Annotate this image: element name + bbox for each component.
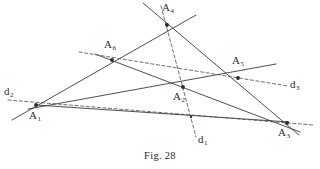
vertex-dots-group (34, 23, 289, 125)
point-A4-dot (165, 23, 169, 27)
line-A1-A2-A5-ext (28, 64, 276, 109)
point-label-A6: A6 (104, 38, 115, 50)
point-A1-dot (34, 103, 38, 107)
point-A6-dot (110, 58, 114, 62)
line-A1-A6-A4 (12, 15, 196, 120)
point-A2-dot (181, 85, 185, 89)
dashed-line-d2 (8, 100, 313, 125)
line-label-d2: d2 (4, 85, 13, 97)
figure-28-container: A1 A2 A3 A4 A5 A6 d1 d2 d3 Fig. 28 (0, 0, 320, 169)
point-A3-dot (285, 121, 289, 125)
geometry-diagram (0, 0, 320, 169)
point-label-A4: A4 (162, 1, 173, 13)
solid-lines-group (12, 3, 300, 135)
figure-caption: Fig. 28 (0, 150, 320, 161)
point-label-A3: A3 (278, 126, 289, 138)
dashed-lines-group (8, 6, 313, 137)
point-label-A5: A5 (232, 54, 243, 66)
point-label-A1: A1 (29, 109, 40, 121)
point-label-A2: A2 (173, 90, 184, 102)
line-label-d1: d1 (198, 133, 207, 145)
line-A4-A5-A3 (143, 3, 299, 135)
point-A5-dot (236, 76, 240, 80)
point-d1-d2-intersection-dot (190, 116, 193, 119)
line-label-d3: d3 (290, 78, 299, 90)
